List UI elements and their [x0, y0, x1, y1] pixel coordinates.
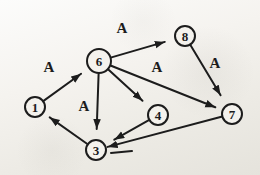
graph-svg: 168473 AAAAA [0, 0, 260, 175]
edge-6-4 [109, 70, 143, 101]
node-4: 4 [148, 105, 168, 125]
edge-7-3-tick [111, 151, 132, 153]
node-7: 7 [222, 104, 242, 124]
edge-1-6 [44, 74, 81, 101]
edge-6-8 [112, 42, 165, 58]
edge-6-3 [97, 74, 99, 129]
node-label-1: 1 [32, 100, 39, 115]
scanned-graph-diagram: 168473 AAAAA [0, 0, 260, 175]
edge-label-1-6: A [44, 59, 55, 75]
node-6: 6 [87, 49, 111, 73]
node-1: 1 [25, 97, 45, 117]
edge-label-6-8: A [117, 20, 128, 36]
node-label-3: 3 [93, 143, 100, 158]
node-label-7: 7 [229, 107, 236, 122]
edge-label-6-3: A [79, 98, 90, 114]
node-label-4: 4 [155, 108, 162, 123]
node-3: 3 [86, 140, 106, 160]
node-8: 8 [175, 26, 195, 46]
node-label-8: 8 [182, 29, 189, 44]
edge-3-1 [50, 117, 87, 143]
edge-label-8-7: A [210, 55, 221, 71]
node-label-6: 6 [96, 54, 103, 69]
edges-layer [44, 42, 222, 153]
edge-label-6-7: A [152, 59, 163, 75]
